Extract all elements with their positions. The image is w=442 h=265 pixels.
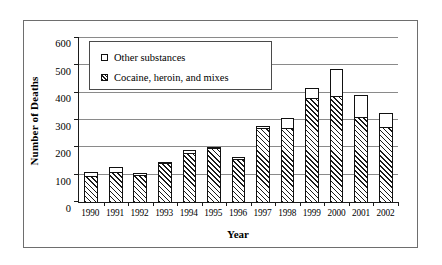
x-axis-tick (275, 202, 276, 206)
legend-swatch-white-square-icon (101, 54, 108, 61)
legend-swatch-hatched-square-icon (101, 74, 108, 81)
x-axis-tick-label-1990: 1990 (78, 208, 103, 218)
x-axis-tick (398, 202, 399, 206)
bar-segment-cocaine-heroin-mixes (305, 98, 319, 203)
bar-segment-cocaine-heroin-mixes (158, 163, 172, 202)
stacked-bar (305, 88, 319, 202)
bar-segment-other-substances (354, 95, 368, 117)
stacked-bar (207, 147, 221, 202)
chart-figure: Number of Deaths 0100200300400500600 199… (0, 0, 442, 265)
bar-segment-cocaine-heroin-mixes (354, 117, 368, 202)
x-axis-tick (153, 202, 154, 206)
stacked-bar (183, 150, 197, 202)
bar-segment-other-substances (305, 88, 319, 98)
stacked-bar (256, 126, 270, 202)
legend-label-other-substances: Other substances (114, 52, 185, 63)
x-axis-tick (300, 202, 301, 206)
x-axis-tick-labels: 1990199119921993199419951996199719981999… (78, 208, 398, 218)
x-axis-tick-label-2001: 2001 (349, 208, 374, 218)
x-axis-tick-label-2000: 2000 (324, 208, 349, 218)
stacked-bar (281, 118, 295, 202)
legend-entry-cocaine-heroin-mixes: Cocaine, heroin, and mixes (101, 67, 271, 87)
x-axis-tick (202, 202, 203, 206)
bar-group-2000 (324, 38, 349, 202)
bar-segment-cocaine-heroin-mixes (84, 176, 98, 202)
bar-group-1999 (300, 38, 325, 202)
bar-group-2002 (373, 38, 398, 202)
y-axis-title: Number of Deaths (26, 38, 42, 203)
bar-segment-cocaine-heroin-mixes (281, 128, 295, 202)
x-axis-tick-label-1992: 1992 (127, 208, 152, 218)
bar-segment-cocaine-heroin-mixes (183, 153, 197, 202)
stacked-bar (158, 162, 172, 202)
x-axis-tick-label-1991: 1991 (103, 208, 128, 218)
y-axis-title-label: Number of Deaths (28, 76, 40, 165)
bar-segment-other-substances (281, 118, 295, 128)
bar-group-1998 (275, 38, 300, 202)
stacked-bar (133, 173, 147, 202)
x-axis-tick-label-2002: 2002 (373, 208, 398, 218)
x-axis-tick (104, 202, 105, 206)
stacked-bar (379, 113, 393, 202)
x-axis-tick (251, 202, 252, 206)
stacked-bar (109, 167, 123, 202)
x-axis-title: Year (78, 228, 398, 240)
bar-segment-other-substances (330, 69, 344, 96)
stacked-bar (232, 157, 246, 202)
stacked-bar (354, 95, 368, 202)
x-axis-tick-label-1998: 1998 (275, 208, 300, 218)
bar-segment-cocaine-heroin-mixes (379, 127, 393, 202)
x-axis-tick-label-1996: 1996 (226, 208, 251, 218)
legend-entry-other-substances: Other substances (101, 47, 271, 67)
bar-segment-other-substances (379, 113, 393, 126)
bar-segment-cocaine-heroin-mixes (330, 96, 344, 202)
bar-segment-cocaine-heroin-mixes (133, 175, 147, 203)
x-axis-tick (349, 202, 350, 206)
x-axis-tick (373, 202, 374, 206)
x-axis-tick-label-1994: 1994 (176, 208, 201, 218)
stacked-bar (330, 69, 344, 202)
bar-segment-cocaine-heroin-mixes (232, 159, 246, 202)
bar-group-2001 (349, 38, 374, 202)
bar-segment-cocaine-heroin-mixes (256, 128, 270, 202)
bar-segment-cocaine-heroin-mixes (207, 148, 221, 202)
x-axis-tick (128, 202, 129, 206)
x-axis-tick-label-1995: 1995 (201, 208, 226, 218)
x-axis-tick-label-1997: 1997 (250, 208, 275, 218)
x-axis-tick (177, 202, 178, 206)
stacked-bar (84, 172, 98, 202)
legend-label-cocaine-heroin-mixes: Cocaine, heroin, and mixes (114, 72, 229, 83)
bar-segment-cocaine-heroin-mixes (109, 172, 123, 202)
x-axis-tick (226, 202, 227, 206)
x-axis-tick-label-1999: 1999 (299, 208, 324, 218)
x-axis-tick-label-1993: 1993 (152, 208, 177, 218)
chart-legend: Other substances Cocaine, heroin, and mi… (89, 41, 272, 90)
x-axis-tick (324, 202, 325, 206)
